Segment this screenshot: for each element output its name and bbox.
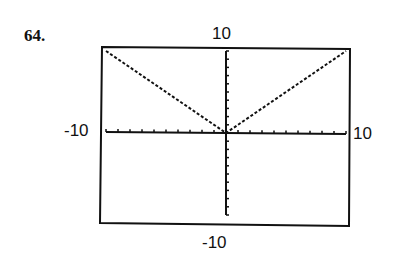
graph-screen: [0, 0, 398, 270]
